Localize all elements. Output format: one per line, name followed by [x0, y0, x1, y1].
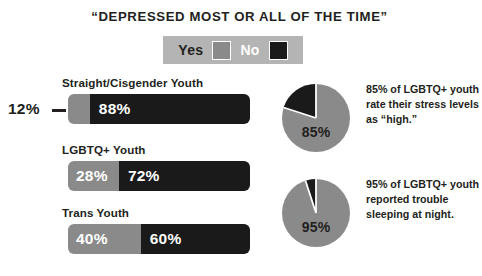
bar-label: LGBTQ+ Youth [62, 143, 146, 156]
leader-line [52, 109, 66, 112]
bar-value-yes-outside: 12% [8, 100, 40, 118]
bar-value-no: 72% [119, 167, 160, 185]
bar-segment-no: 88% [90, 94, 250, 124]
legend-label-no: No [240, 43, 259, 57]
bar-track: 28% 72% [68, 161, 250, 191]
bar-segment-yes: 40% [68, 224, 141, 254]
bar-segment-yes: 28% [68, 161, 119, 191]
legend-swatch-yes [212, 41, 231, 60]
page-title: “DEPRESSED MOST OR ALL OF THE TIME” [0, 9, 479, 24]
legend-label-yes: Yes [178, 43, 203, 57]
bar-value-no: 60% [141, 230, 182, 248]
pie-caption: 85% of LGBTQ+ youth rate their stress le… [366, 82, 482, 128]
pie-chart-95 [282, 179, 350, 247]
bar-value-yes: 28% [68, 167, 108, 185]
legend: Yes No [163, 36, 303, 64]
bar-segment-no: 60% [141, 224, 250, 254]
bar-segment-no: 72% [119, 161, 250, 191]
bar-value-yes: 40% [68, 230, 108, 248]
bar-label: Trans Youth [62, 206, 129, 219]
pie-chart-85 [282, 84, 350, 152]
bar-value-no: 88% [90, 100, 131, 118]
pie-caption: 95% of LGBTQ+ youth reported trouble sle… [366, 177, 482, 223]
bar-segment-yes [68, 94, 90, 124]
bar-track: 88% [68, 94, 250, 124]
bar-label: Straight/Cisgender Youth [62, 76, 203, 89]
legend-swatch-no [269, 41, 288, 60]
bar-track: 40% 60% [68, 224, 250, 254]
